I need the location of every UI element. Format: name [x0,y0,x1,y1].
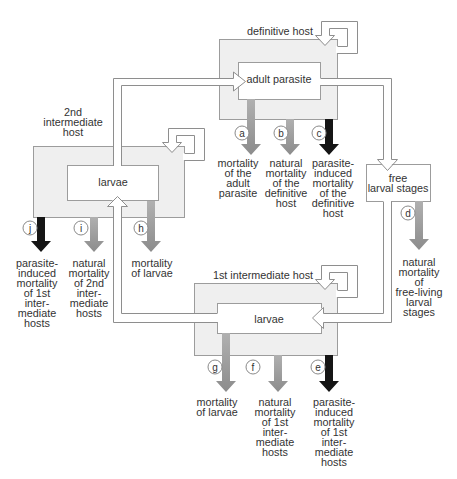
marker-letter-b: b [278,128,284,139]
parasite-life-cycle-diagram: definitive host adult parasite 2nd inter… [0,0,457,479]
marker-letter-a: a [239,128,245,139]
first-host-label: 1st intermediate host [213,269,313,281]
mortality-arrow-j: j parasite- induced mortality of 1st int… [16,217,58,329]
mortality-j-line: hosts [24,317,50,329]
second-host-larvae-label: larvae [98,176,127,188]
mortality-h-line: of larvae [131,267,172,279]
marker-letter-i: i [80,223,82,234]
first-host-larvae-label: larvae [254,313,283,325]
second-host-label-line-3: host [63,126,83,138]
mortality-i-line: hosts [76,307,102,319]
transmission-arrow-to-first-host-larvae [312,200,392,329]
mortality-g-line: of larvae [196,406,237,418]
mortality-arrow-c: c parasite- induced mortality of the def… [312,119,355,219]
mortality-arrow-e: e parasite- induced mortality of 1st int… [311,355,355,468]
mortality-f-line: hosts [262,446,288,458]
marker-letter-g: g [212,362,218,373]
mortality-e-line: hosts [321,456,347,468]
marker-letter-j: j [28,223,31,234]
mortality-d-line: stages [403,306,435,318]
marker-letter-e: e [315,362,321,373]
marker-letter-f: f [252,362,255,373]
mortality-arrow-d: d natural mortality of free-living larva… [396,201,443,318]
mortality-c-line: host [323,207,343,219]
marker-letter-c: c [317,128,322,139]
marker-letter-d: d [405,208,411,219]
mortality-a-line: parasite [219,187,257,199]
mortality-arrow-f: f natural mortality of 1st inter- mediat… [246,355,296,458]
black-down-arrow-icon [319,355,339,392]
adult-parasite-label: adult parasite [247,73,312,85]
grey-down-arrow-icon [84,217,104,252]
marker-letter-h: h [138,223,144,234]
definitive-host-label: definitive host [247,25,313,37]
free-larval-label-line-2: larval stages [368,182,429,194]
mortality-b-line: host [276,197,296,209]
grey-down-arrow-icon [268,355,288,392]
mortality-arrow-i: i natural mortality of 2nd inter- mediat… [69,217,110,319]
mortality-arrow-b: b natural mortality of the definitive ho… [265,119,308,209]
